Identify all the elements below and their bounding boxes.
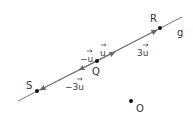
label-s: S xyxy=(26,80,32,91)
label-q: Q xyxy=(92,66,100,77)
vector-label-neg-3u: −3u xyxy=(65,78,84,92)
vector-diagram: S Q R O g u −u 3u −3u xyxy=(0,0,193,124)
svg-text:−3u: −3u xyxy=(65,82,84,92)
point-s xyxy=(35,89,39,93)
label-r: R xyxy=(150,13,157,24)
point-o xyxy=(129,99,133,103)
label-o: O xyxy=(136,103,144,114)
svg-text:u: u xyxy=(100,48,106,58)
label-line-g: g xyxy=(177,27,183,38)
svg-text:3u: 3u xyxy=(137,48,148,58)
vector-label-u: u xyxy=(100,44,106,58)
svg-text:−u: −u xyxy=(80,54,93,64)
point-q xyxy=(95,59,99,63)
point-r xyxy=(158,26,162,30)
vector-label-neg-u: −u xyxy=(80,50,93,64)
vector-label-3u: 3u xyxy=(137,44,148,58)
